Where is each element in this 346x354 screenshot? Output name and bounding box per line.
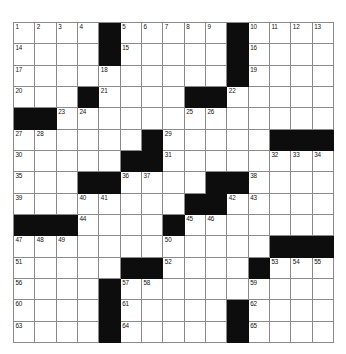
- crossword-cell[interactable]: [249, 151, 270, 172]
- crossword-cell[interactable]: [35, 279, 56, 300]
- crossword-cell[interactable]: 23: [57, 108, 78, 129]
- crossword-cell[interactable]: 30: [14, 151, 35, 172]
- crossword-cell[interactable]: [270, 279, 291, 300]
- crossword-cell[interactable]: 54: [291, 258, 312, 279]
- crossword-cell[interactable]: 8: [185, 23, 206, 44]
- crossword-cell[interactable]: [313, 215, 334, 236]
- crossword-cell[interactable]: [227, 151, 248, 172]
- crossword-cell[interactable]: [313, 108, 334, 129]
- crossword-cell[interactable]: [313, 194, 334, 215]
- crossword-cell[interactable]: [78, 322, 99, 343]
- crossword-cell[interactable]: [313, 66, 334, 87]
- crossword-cell[interactable]: [270, 87, 291, 108]
- crossword-cell[interactable]: [35, 172, 56, 193]
- crossword-cell[interactable]: [291, 66, 312, 87]
- crossword-cell[interactable]: [291, 215, 312, 236]
- crossword-cell[interactable]: [206, 66, 227, 87]
- crossword-cell[interactable]: [163, 279, 184, 300]
- crossword-cell[interactable]: [57, 44, 78, 65]
- crossword-cell[interactable]: 1: [14, 23, 35, 44]
- crossword-cell[interactable]: 9: [206, 23, 227, 44]
- crossword-cell[interactable]: [206, 44, 227, 65]
- crossword-cell[interactable]: 25: [185, 108, 206, 129]
- crossword-cell[interactable]: 32: [270, 151, 291, 172]
- crossword-cell[interactable]: 16: [249, 44, 270, 65]
- crossword-cell[interactable]: 36: [121, 172, 142, 193]
- crossword-cell[interactable]: [163, 108, 184, 129]
- crossword-cell[interactable]: 56: [14, 279, 35, 300]
- crossword-cell[interactable]: [227, 215, 248, 236]
- crossword-cell[interactable]: [163, 87, 184, 108]
- crossword-cell[interactable]: [270, 322, 291, 343]
- crossword-cell[interactable]: 21: [99, 87, 120, 108]
- crossword-cell[interactable]: 52: [163, 258, 184, 279]
- crossword-cell[interactable]: [57, 172, 78, 193]
- crossword-cell[interactable]: 26: [206, 108, 227, 129]
- crossword-cell[interactable]: [291, 300, 312, 321]
- crossword-cell[interactable]: [227, 236, 248, 257]
- crossword-cell[interactable]: [35, 258, 56, 279]
- crossword-cell[interactable]: [185, 236, 206, 257]
- crossword-cell[interactable]: 57: [121, 279, 142, 300]
- crossword-cell[interactable]: 41: [99, 194, 120, 215]
- crossword-cell[interactable]: [57, 130, 78, 151]
- crossword-cell[interactable]: [78, 44, 99, 65]
- crossword-cell[interactable]: 11: [270, 23, 291, 44]
- crossword-cell[interactable]: [206, 322, 227, 343]
- crossword-cell[interactable]: [121, 87, 142, 108]
- crossword-cell[interactable]: [35, 300, 56, 321]
- crossword-cell[interactable]: [185, 300, 206, 321]
- crossword-cell[interactable]: [291, 108, 312, 129]
- crossword-cell[interactable]: 53: [270, 258, 291, 279]
- crossword-cell[interactable]: [206, 130, 227, 151]
- crossword-cell[interactable]: 63: [14, 322, 35, 343]
- crossword-cell[interactable]: 58: [142, 279, 163, 300]
- crossword-cell[interactable]: [313, 300, 334, 321]
- crossword-cell[interactable]: 65: [249, 322, 270, 343]
- crossword-cell[interactable]: 55: [313, 258, 334, 279]
- crossword-cell[interactable]: [142, 66, 163, 87]
- crossword-cell[interactable]: [270, 44, 291, 65]
- crossword-cell[interactable]: [185, 44, 206, 65]
- crossword-cell[interactable]: [227, 279, 248, 300]
- crossword-cell[interactable]: 39: [14, 194, 35, 215]
- crossword-cell[interactable]: [313, 322, 334, 343]
- crossword-cell[interactable]: 44: [78, 215, 99, 236]
- crossword-cell[interactable]: [78, 66, 99, 87]
- crossword-cell[interactable]: [121, 236, 142, 257]
- crossword-cell[interactable]: [163, 66, 184, 87]
- crossword-cell[interactable]: [78, 236, 99, 257]
- crossword-cell[interactable]: [163, 322, 184, 343]
- crossword-cell[interactable]: [35, 151, 56, 172]
- crossword-cell[interactable]: 35: [14, 172, 35, 193]
- crossword-cell[interactable]: [270, 194, 291, 215]
- crossword-cell[interactable]: [57, 66, 78, 87]
- crossword-cell[interactable]: 19: [249, 66, 270, 87]
- crossword-grid[interactable]: 1234567891011121314151617181920212223242…: [13, 22, 334, 343]
- crossword-cell[interactable]: 4: [78, 23, 99, 44]
- crossword-cell[interactable]: [35, 44, 56, 65]
- crossword-cell[interactable]: [227, 108, 248, 129]
- crossword-cell[interactable]: [142, 215, 163, 236]
- crossword-cell[interactable]: [35, 322, 56, 343]
- crossword-cell[interactable]: [78, 279, 99, 300]
- crossword-cell[interactable]: 50: [163, 236, 184, 257]
- crossword-cell[interactable]: 33: [291, 151, 312, 172]
- crossword-cell[interactable]: [35, 194, 56, 215]
- crossword-cell[interactable]: [185, 279, 206, 300]
- crossword-cell[interactable]: 28: [35, 130, 56, 151]
- crossword-cell[interactable]: 6: [142, 23, 163, 44]
- crossword-cell[interactable]: [227, 130, 248, 151]
- crossword-cell[interactable]: [121, 108, 142, 129]
- crossword-cell[interactable]: [270, 300, 291, 321]
- crossword-cell[interactable]: [185, 130, 206, 151]
- crossword-cell[interactable]: 29: [163, 130, 184, 151]
- crossword-cell[interactable]: [185, 258, 206, 279]
- crossword-cell[interactable]: [270, 172, 291, 193]
- crossword-cell[interactable]: [227, 258, 248, 279]
- crossword-cell[interactable]: [313, 172, 334, 193]
- crossword-cell[interactable]: 40: [78, 194, 99, 215]
- crossword-cell[interactable]: [78, 151, 99, 172]
- crossword-cell[interactable]: [185, 66, 206, 87]
- crossword-cell[interactable]: [57, 151, 78, 172]
